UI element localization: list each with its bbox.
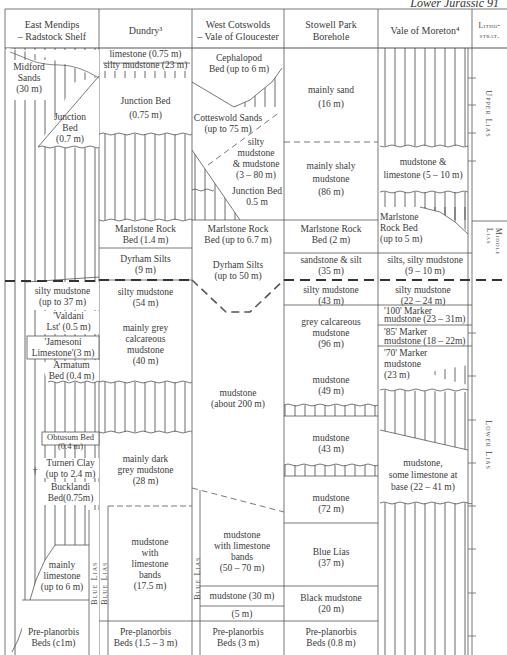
bed-valdani: 'Valdani Lst' (0.5 m) [38, 311, 99, 333]
bed-preplanorbis-em: Pre-planorbis Beds (c1m) [8, 627, 99, 649]
bed-silty-dundry: silty mudstone (54 m) [99, 287, 192, 309]
label-blue-lias-em: Blue Lias [89, 545, 99, 605]
marker-70: '70' Marker [384, 348, 427, 359]
bed-obtusum: Obtusum Bed (0.4 m) [42, 433, 99, 451]
stratigraphic-correlation-chart: Lower Jurassic 91 [0, 0, 507, 655]
bed-junction-wc: Junction Bed 0.5 m [228, 186, 286, 208]
bed-mudstone-30: mudstone (30 m) [200, 591, 284, 602]
bed-silty-mudstone: silty mudstone (up to 37 m) [26, 286, 99, 308]
bed-jamesoni: 'Jamesoni Limestone'(3 m) [27, 337, 99, 359]
bed-lst-bands-wc: mudstone with limestone bands (50 – 70 m… [200, 530, 284, 574]
bed-preplanorbis-sp: Pre-planorbis Beds (0.8 m) [284, 627, 378, 649]
bed-mudstone-70: mudstone (23 m) [384, 359, 421, 381]
bed-preplanorbis-wc: Pre-planorbis Beds (3 m) [192, 627, 284, 649]
bed-midford-sands: Midford Sands (30 m) [10, 62, 48, 95]
header-dundry: Dundry³ [99, 25, 192, 37]
bed-grey-calc-dundry: mainly grey calcareous mudstone (40 m) [99, 323, 192, 367]
bed-turneri: Turneri Clay (up to 2.4 m) [42, 458, 99, 480]
header-east-mendips: East Mendips – Radstock Shelf [5, 19, 99, 43]
bed-blue-lias-sp: Blue Lias (37 m) [284, 547, 378, 569]
bed-5m: (5 m) [200, 609, 284, 620]
bed-silty-wc: silty mudstone & mudstone (3 – 80 m) [228, 137, 284, 181]
bed-base-vm: mudstone, some limestone at base (22 – 4… [378, 457, 468, 493]
header-stowell-park: Stowell Park Borehole [284, 19, 378, 43]
bed-grey-calc-sp: grey calcareous mudstone (96 m) [284, 317, 378, 350]
bed-marlstone-vm: Marlstone Rock Bed (up to 5 m) [380, 212, 428, 245]
label-blue-lias-dundry: Blue Lias [99, 545, 109, 605]
bed-dyrham-dundry: Dyrham Silts (9 m) [99, 254, 192, 276]
bed-mud-lst-vm: mudstone & limestone (5 – 10 m) [378, 156, 468, 182]
bed-marlstone-sp: Marlstone Rock Bed (2 m) [284, 224, 378, 246]
bed-mudstone-100: mudstone (23 – 31m) [384, 314, 466, 325]
label-upper-lias: Upper Lias [484, 90, 494, 180]
bed-preplanorbis-dundry: Pre-planorbis Beds (1.5 – 3 m) [99, 627, 192, 649]
bed-mudstone-49: mudstone (49 m) [284, 375, 378, 397]
bed-silty-sp: silty mudstone (43 m) [284, 285, 378, 307]
bed-junction-dundry: Junction Bed (0.75 m) [99, 94, 192, 122]
bed-black-mudstone: Black mudstone (20 m) [284, 593, 378, 615]
bed-lst-bands-dundry: mudstone with limestone bands (17.5 m) [108, 537, 192, 592]
bed-silty-vm: silty mudstone (22 – 24 m) [378, 285, 468, 307]
bed-mudstone-43: mudstone (43 m) [284, 433, 378, 455]
label-lower-lias: Lower Lias [484, 420, 494, 500]
bed-silty-mudstone-top: silty mudstone (23 m) [99, 60, 192, 71]
bed-mudstone-wc: mudstone (about 200 m) [192, 388, 284, 410]
label-middle-lias: Middle Lias [479, 228, 503, 268]
bed-marlstone-wc: Marlstone Rock Bed (up to 6.7 m) [192, 224, 284, 246]
bed-junction: Junction Bed (0.7 m) [44, 112, 96, 145]
bed-marlstone-dundry: Marlstone Rock Bed (1.4 m) [99, 224, 192, 246]
header-lithostrat: Litho- strat. [472, 21, 507, 41]
bed-silts-vm: silts, silty mudstone (9 – 10 m) [378, 255, 472, 277]
bed-sandstone-silt: sandstone & silt (35 m) [284, 255, 378, 277]
bed-mainly-limestone: mainly limestone (up to 6 m) [34, 560, 90, 593]
bed-limestone-dundry: limestone (0.75 m) [99, 49, 192, 60]
bed-dark-grey-dundry: mainly dark grey mudstone (28 m) [99, 454, 192, 487]
bed-dyrham-wc: Dyrham Silts (up to 50 m) [192, 260, 284, 282]
dagger-mark: † [30, 466, 40, 477]
bed-bucklandi: Bucklandi Bed(0.75m) [42, 482, 99, 504]
header-west-cotswolds: West Cotswolds – Vale of Gloucester [192, 19, 284, 43]
bed-cotteswold-sands: Cotteswold Sands (up to 75 m) [192, 113, 264, 135]
bed-mainly-sand: mainly sand (16 m) [284, 83, 378, 111]
bed-armatum: Armatum Bed (0.4 m) [44, 360, 99, 382]
bed-cephalopod: Cephalopod Bed (up to 6 m) [194, 53, 284, 75]
header-vale-of-moreton: Vale of Moreton⁴ [378, 25, 472, 37]
bed-shaly-mudstone: mainly shaly mudstone (86 m) [284, 160, 378, 199]
bed-mudstone-72: mudstone (72 m) [284, 493, 378, 515]
bed-mudstone-85: mudstone (18 – 22m) [384, 336, 466, 347]
